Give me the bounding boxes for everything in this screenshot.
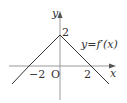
x-tick-neg-2: −2 — [29, 68, 45, 81]
y-axis-arrow-icon — [58, 11, 63, 18]
origin-label: O — [51, 68, 60, 81]
y-tick-2: 2 — [62, 26, 69, 39]
y-axis-label: y — [51, 7, 59, 20]
x-tick-2: 2 — [84, 68, 91, 81]
graph-canvas: y 2 y=f′(x) −2 O 2 x — [0, 0, 127, 103]
curve-label: y=f′(x) — [80, 38, 118, 51]
x-axis-label: x — [110, 67, 117, 80]
